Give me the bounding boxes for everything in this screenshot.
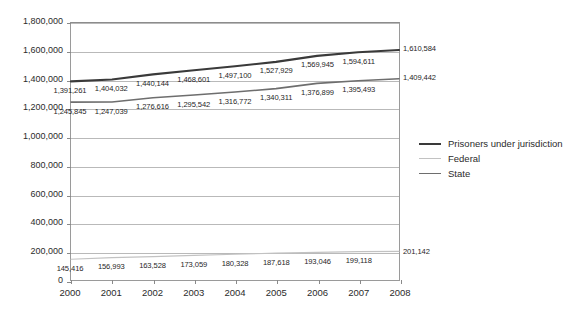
data-point-label: 156,993 [98, 263, 125, 271]
legend-item[interactable]: State [419, 166, 579, 181]
data-point-label: 201,142 [403, 248, 430, 256]
data-point-label: 193,046 [304, 258, 331, 266]
legend: Prisoners under jurisdictionFederalState [419, 136, 579, 181]
data-point-label: 173,059 [180, 261, 207, 269]
data-point-label: 1,409,442 [403, 74, 436, 82]
data-point-label: 1,245,845 [54, 108, 87, 116]
data-point-label: 1,316,772 [219, 98, 252, 106]
data-point-label: 1,276,616 [136, 103, 169, 111]
data-point-label: 145,416 [57, 265, 84, 273]
data-point-label: 1,440,144 [136, 80, 169, 88]
data-point-label: 1,527,929 [260, 67, 293, 75]
legend-line-swatch [419, 173, 441, 174]
x-axis-tick-label: 2001 [101, 288, 122, 298]
x-axis-tick-label: 2003 [183, 288, 204, 298]
legend-item-label: Federal [448, 153, 480, 164]
data-point-label: 163,528 [139, 262, 166, 270]
legend-item-label: Prisoners under jurisdiction [448, 138, 563, 149]
x-axis-tick-label: 2005 [266, 288, 287, 298]
data-point-label: 1,594,611 [343, 58, 375, 66]
data-point-label: 1,340,311 [260, 94, 292, 102]
legend-item[interactable]: Prisoners under jurisdiction [419, 136, 579, 151]
x-axis-tick-label: 2007 [348, 288, 369, 298]
x-axis-tick-label: 2004 [224, 288, 245, 298]
x-axis-tick-label: 2000 [59, 288, 80, 298]
data-point-label: 180,328 [222, 260, 249, 268]
legend-line-swatch [419, 143, 441, 145]
line-chart: 0200,000400,000600,000800,0001,000,0001,… [0, 0, 581, 312]
data-point-label: 1,569,945 [301, 61, 334, 69]
data-point-label: 199,118 [346, 257, 372, 265]
data-point-label: 1,295,542 [177, 101, 210, 109]
data-point-label: 1,376,899 [301, 89, 334, 97]
data-point-label: 1,391,261 [54, 87, 87, 95]
data-point-label: 1,404,032 [95, 85, 128, 93]
x-axis-tick-labels: 200020012002200320042005200620072008 [70, 288, 400, 302]
data-point-label: 187,618 [263, 259, 290, 267]
data-point-label: 1,395,493 [342, 86, 375, 94]
legend-line-swatch [419, 158, 441, 159]
data-point-label: 1,610,584 [403, 45, 436, 53]
data-point-label: 1,497,100 [219, 72, 252, 80]
data-point-label: 1,247,039 [95, 108, 128, 116]
x-axis-tick-label: 2006 [307, 288, 328, 298]
x-axis-tick-label: 2002 [142, 288, 163, 298]
x-axis-tick-label: 2008 [389, 288, 410, 298]
legend-item[interactable]: Federal [419, 151, 579, 166]
legend-item-label: State [448, 168, 470, 179]
data-point-label: 1,468,601 [177, 76, 210, 84]
